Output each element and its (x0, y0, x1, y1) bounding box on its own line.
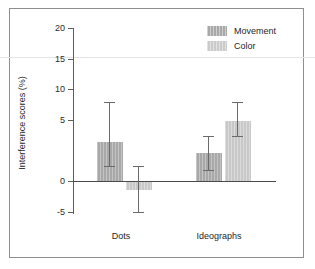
legend: Movement Color (207, 25, 276, 55)
zero-baseline (73, 181, 276, 182)
plot-area: 20 15 10 5 0 -5 Interference scores (%) (0, 0, 315, 269)
legend-item-movement: Movement (207, 25, 276, 37)
y-tick-mark-20 (68, 28, 73, 29)
y-tick-label-5: 5 (25, 116, 65, 125)
legend-label-color: Color (234, 41, 256, 51)
legend-swatch-movement (207, 26, 227, 36)
errorbar-cap-top-ideographs-color (232, 102, 243, 103)
bar-dots-color (126, 182, 152, 190)
figure-container: 20 15 10 5 0 -5 Interference scores (%) (0, 0, 315, 269)
y-tick-label-0: 0 (25, 177, 65, 186)
errorbar-stem-dots-color (138, 166, 139, 212)
y-tick-mark-neg5 (68, 212, 73, 213)
errorbar-stem-ideographs-movement (208, 136, 209, 170)
legend-swatch-color (207, 41, 227, 51)
errorbar-cap-top-ideographs-movement (203, 136, 214, 137)
errorbar-cap-bottom-ideographs-movement (203, 170, 214, 171)
errorbar-stem-dots-movement (109, 102, 110, 166)
errorbar-cap-bottom-dots-color (133, 212, 144, 213)
y-tick-label-neg5: -5 (25, 208, 65, 217)
bar-ideographs-movement (196, 153, 222, 181)
y-tick-mark-5 (68, 120, 73, 121)
y-tick-mark-15 (68, 59, 73, 60)
bar-dots-movement (97, 142, 123, 181)
legend-item-color: Color (207, 40, 276, 52)
y-tick-mark-10 (68, 89, 73, 90)
errorbar-cap-bottom-ideographs-color (232, 136, 243, 137)
bar-ideographs-color (225, 121, 251, 181)
y-tick-label-15: 15 (25, 55, 65, 64)
x-category-label-ideographs: Ideographs (179, 231, 259, 241)
errorbar-cap-top-dots-movement (104, 102, 115, 103)
y-tick-label-10: 10 (25, 85, 65, 94)
errorbar-cap-bottom-dots-movement (104, 166, 115, 167)
y-tick-label-20: 20 (25, 24, 65, 33)
errorbar-stem-ideographs-color (237, 102, 238, 136)
x-category-label-dots: Dots (81, 231, 161, 241)
y-axis-line (73, 28, 74, 214)
legend-label-movement: Movement (234, 26, 276, 36)
errorbar-cap-top-dots-color (133, 166, 144, 167)
y-axis-title: Interference scores (%) (17, 63, 27, 183)
